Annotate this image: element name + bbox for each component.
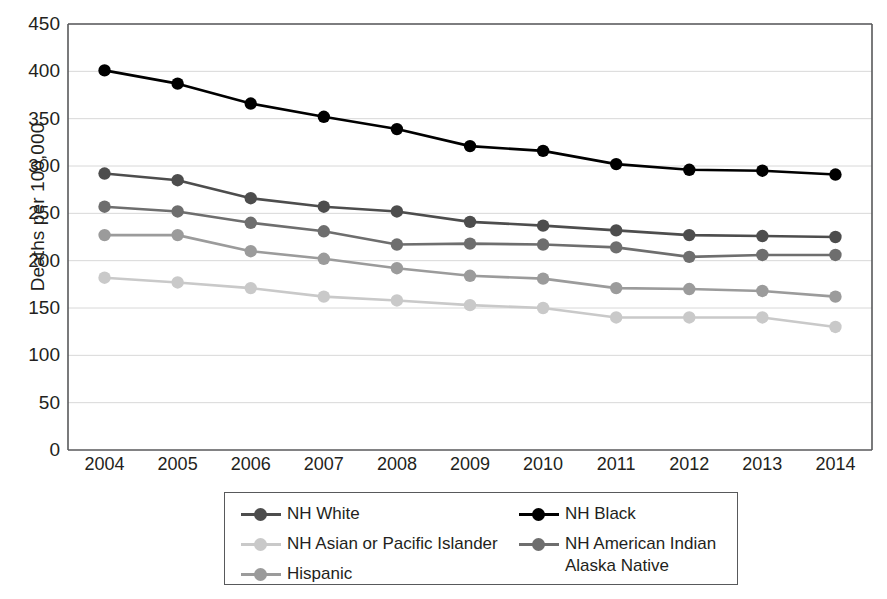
data-point — [756, 285, 768, 297]
data-point — [464, 270, 476, 282]
data-point — [171, 174, 183, 186]
series-line — [98, 167, 841, 243]
legend-marker-icon — [239, 563, 283, 585]
data-point — [171, 77, 183, 89]
data-point — [756, 249, 768, 261]
data-point — [245, 192, 257, 204]
data-point — [391, 238, 403, 250]
legend-marker-icon — [239, 503, 283, 525]
line-chart: Deaths per 100,000 050100150200250300350… — [0, 0, 887, 599]
data-point — [318, 111, 330, 123]
legend-marker-icon — [239, 533, 283, 555]
series-layer — [98, 64, 841, 333]
data-point — [245, 282, 257, 294]
legend-item[interactable]: NH Black — [517, 503, 636, 525]
data-point — [391, 205, 403, 217]
data-point — [318, 201, 330, 213]
legend-item[interactable]: NH American Indian Alaska Native — [517, 533, 716, 577]
legend-marker-icon — [517, 503, 561, 525]
data-point — [391, 262, 403, 274]
data-point — [537, 302, 549, 314]
data-point — [318, 290, 330, 302]
data-point — [391, 123, 403, 135]
legend-item-label: Hispanic — [287, 563, 352, 585]
data-point — [318, 253, 330, 265]
data-point — [756, 311, 768, 323]
data-point — [610, 158, 622, 170]
data-point — [171, 276, 183, 288]
legend-item[interactable]: Hispanic — [239, 563, 352, 585]
data-point — [98, 201, 110, 213]
data-point — [610, 224, 622, 236]
legend-item[interactable]: NH Asian or Pacific Islander — [239, 533, 498, 555]
legend-item-label: NH Asian or Pacific Islander — [287, 533, 498, 555]
data-point — [537, 145, 549, 157]
data-point — [98, 64, 110, 76]
data-point — [537, 219, 549, 231]
data-point — [245, 97, 257, 109]
data-point — [98, 229, 110, 241]
series-line — [98, 64, 841, 181]
legend: NH WhiteNH BlackNH Asian or Pacific Isla… — [224, 492, 738, 585]
legend-marker-icon — [517, 533, 561, 555]
data-point — [610, 311, 622, 323]
data-point — [318, 225, 330, 237]
data-point — [245, 245, 257, 257]
data-point — [464, 140, 476, 152]
data-point — [610, 241, 622, 253]
data-point — [171, 229, 183, 241]
data-point — [683, 164, 695, 176]
data-point — [98, 167, 110, 179]
data-point — [756, 165, 768, 177]
data-point — [464, 299, 476, 311]
data-point — [537, 238, 549, 250]
data-point — [683, 283, 695, 295]
legend-item-label: NH American Indian Alaska Native — [565, 533, 716, 577]
data-point — [829, 168, 841, 180]
legend-item-label: NH White — [287, 503, 360, 525]
data-point — [829, 249, 841, 261]
legend-item[interactable]: NH White — [239, 503, 360, 525]
data-point — [756, 230, 768, 242]
data-point — [683, 251, 695, 263]
data-point — [98, 272, 110, 284]
data-point — [464, 216, 476, 228]
data-point — [245, 217, 257, 229]
data-point — [171, 205, 183, 217]
data-point — [683, 311, 695, 323]
series-path — [105, 70, 836, 174]
data-point — [683, 229, 695, 241]
data-point — [391, 294, 403, 306]
data-point — [829, 290, 841, 302]
data-point — [610, 282, 622, 294]
data-point — [464, 237, 476, 249]
data-point — [537, 272, 549, 284]
series-line — [98, 201, 841, 264]
data-point — [829, 231, 841, 243]
data-point — [829, 321, 841, 333]
legend-item-label: NH Black — [565, 503, 636, 525]
